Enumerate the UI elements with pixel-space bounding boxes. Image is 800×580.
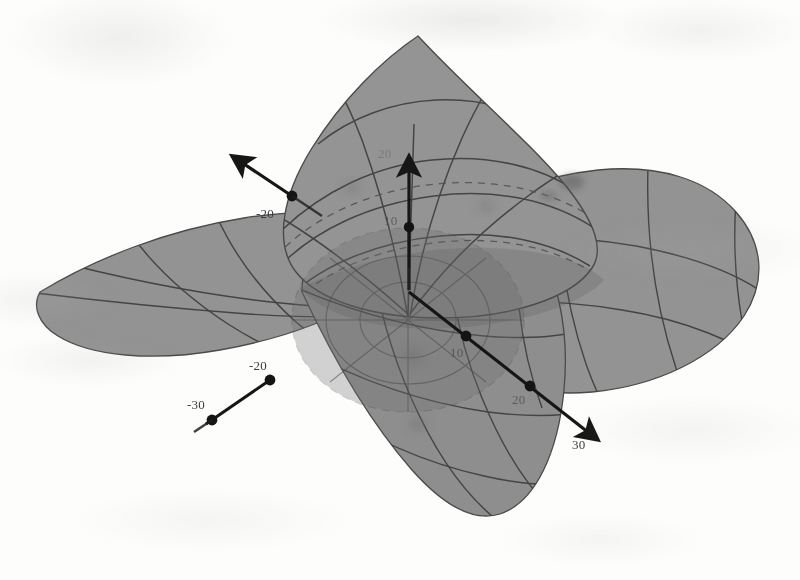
- axis-label-vertical-20: 20: [378, 146, 391, 162]
- axis-tick-marker-lower-right-20: [525, 381, 536, 392]
- axis-tick-marker-lower-left-20: [265, 375, 276, 386]
- figure-canvas: 20 10 -20 -20 -30 10 20 30: [0, 0, 800, 580]
- axis-tick-marker-lower-right-10: [461, 331, 472, 342]
- axis-label-lower-right-30: 30: [572, 437, 585, 453]
- axis-label-lower-left-neg30: -30: [187, 397, 205, 413]
- axis-label-upper-left-neg20: -20: [256, 206, 274, 222]
- surface-plot-svg: [0, 0, 800, 580]
- axis-label-lower-right-20: 20: [512, 392, 525, 408]
- axis-tick-marker-vertical-10: [404, 222, 414, 232]
- axis-label-lower-right-10: 10: [450, 345, 463, 361]
- axis-label-vertical-10: 10: [384, 213, 397, 229]
- axis-label-lower-left-neg20: -20: [249, 358, 267, 374]
- axis-lower-left: [194, 375, 275, 432]
